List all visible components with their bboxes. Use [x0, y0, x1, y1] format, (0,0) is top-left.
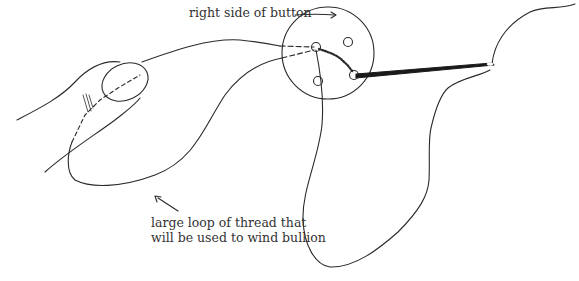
- arrow-bottom: [158, 198, 178, 211]
- finger: [17, 56, 154, 172]
- thread-dashed-1: [280, 46, 314, 47]
- crease-marks: [83, 94, 93, 112]
- illustration: right side of button large loop of threa…: [0, 0, 579, 281]
- thread-loop: [68, 58, 282, 185]
- needle: [356, 63, 494, 78]
- fingernail: [96, 56, 155, 109]
- thread-upper: [142, 40, 280, 62]
- hole-top-right: [344, 38, 353, 47]
- thread-dashed-2: [282, 50, 314, 58]
- label-right-side-of-button: right side of button: [189, 5, 312, 20]
- chain-stitch: [319, 49, 353, 72]
- label-large-loop-line2: will be used to wind bullion: [151, 230, 326, 245]
- label-large-loop-line1: large loop of thread that: [151, 215, 326, 230]
- thread-tail: [492, 4, 575, 64]
- label-large-loop: large loop of thread that will be used t…: [151, 215, 326, 245]
- button: [282, 7, 374, 99]
- thread-lower-loop: [303, 50, 490, 267]
- needle-eye: [487, 63, 493, 66]
